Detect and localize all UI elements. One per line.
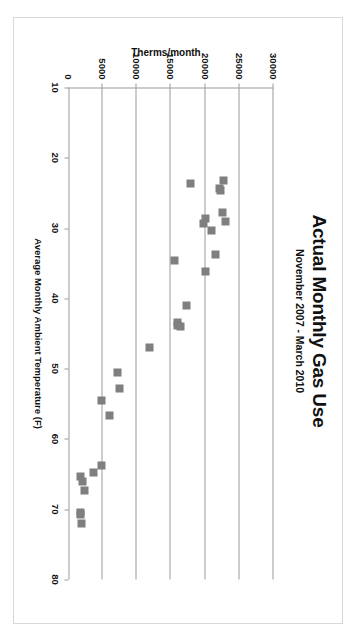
data-point — [208, 226, 216, 234]
data-point — [80, 486, 88, 494]
x-axis-tick — [64, 579, 68, 580]
data-point — [221, 217, 229, 225]
x-axis-tick-label: 60 — [49, 433, 60, 444]
x-axis-tick-label: 40 — [49, 293, 60, 304]
y-axis-tick — [204, 83, 205, 87]
plot-area — [68, 87, 273, 579]
page-frame: Actual Monthly Gas Use November 2007 - M… — [13, 17, 343, 624]
y-axis-tick — [170, 83, 171, 87]
data-point — [97, 396, 105, 404]
x-axis-tick-label: 50 — [49, 363, 60, 374]
y-axis-tick — [272, 83, 273, 87]
data-point — [77, 519, 85, 527]
y-axis-tick — [238, 83, 239, 87]
data-point — [186, 179, 194, 187]
data-point — [113, 368, 121, 376]
data-point — [76, 510, 84, 518]
y-axis-tick-label: 30000 — [268, 17, 279, 79]
gridline — [272, 87, 273, 579]
y-axis-tick — [135, 83, 136, 87]
x-axis-line — [68, 87, 69, 579]
y-axis-tick-label: 25000 — [233, 17, 244, 79]
scatter-chart: Actual Monthly Gas Use November 2007 - M… — [13, 17, 343, 624]
x-axis-tick-label: 30 — [49, 222, 60, 233]
chart-rotation-wrapper: Actual Monthly Gas Use November 2007 - M… — [13, 17, 343, 624]
gridline — [101, 87, 102, 579]
x-axis-tick — [64, 509, 68, 510]
data-point — [145, 343, 153, 351]
data-point — [97, 461, 105, 469]
data-point — [115, 384, 123, 392]
x-axis-title: Average Monthly Ambient Temperature (F) — [32, 87, 43, 579]
x-axis-tick — [64, 157, 68, 158]
data-point — [105, 411, 113, 419]
y-axis-tick-label: 10000 — [131, 17, 142, 79]
gridline — [135, 87, 136, 579]
x-axis-tick — [64, 298, 68, 299]
y-axis-tick — [101, 83, 102, 87]
data-point — [216, 186, 224, 194]
y-axis-tick-label: 20000 — [199, 17, 210, 79]
x-axis-tick — [64, 87, 68, 88]
data-point — [176, 322, 184, 330]
gridline — [204, 87, 205, 579]
gridline — [238, 87, 239, 579]
x-axis-tick-label: 10 — [49, 82, 60, 93]
chart-subtitle: November 2007 - March 2010 — [293, 17, 305, 624]
x-axis-tick — [64, 368, 68, 369]
x-axis-tick — [64, 228, 68, 229]
data-point — [182, 301, 190, 309]
chart-title: Actual Monthly Gas Use — [307, 17, 329, 624]
data-point — [199, 219, 207, 227]
x-axis-tick-label: 20 — [49, 152, 60, 163]
x-axis-tick-label: 80 — [49, 574, 60, 585]
data-point — [219, 176, 227, 184]
y-axis-tick-label: 15000 — [165, 17, 176, 79]
data-point — [201, 267, 209, 275]
y-axis-tick-label: 5000 — [97, 17, 108, 79]
data-point — [211, 250, 219, 258]
data-point — [170, 256, 178, 264]
x-axis-tick-label: 70 — [49, 503, 60, 514]
gridline — [170, 87, 171, 579]
data-point — [218, 208, 226, 216]
data-point — [78, 477, 86, 485]
data-point — [89, 468, 97, 476]
y-axis-tick-label: 0 — [63, 17, 74, 79]
x-axis-tick — [64, 438, 68, 439]
